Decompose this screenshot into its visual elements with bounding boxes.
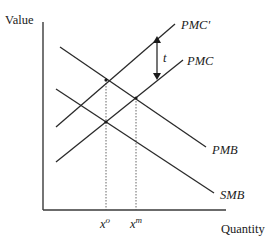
svg-text:xm: xm — [129, 215, 143, 231]
label-pmb: PMB — [211, 143, 238, 157]
quantity-label-x-o: xo — [99, 215, 111, 231]
x-o-superscript: o — [106, 215, 111, 225]
curve-pmb — [60, 47, 206, 147]
externality-diagram: Value Quantity PMC' PMC PMB SMB t xo xm — [0, 0, 279, 243]
label-pmc: PMC — [186, 54, 214, 68]
quantity-label-x-m: xm — [129, 215, 143, 231]
intersection-point — [134, 96, 137, 99]
x-m-superscript: m — [136, 215, 143, 225]
intersection-point — [104, 78, 107, 81]
tax-arrow — [153, 36, 161, 80]
svg-text:xo: xo — [99, 215, 111, 231]
tax-label: t — [163, 51, 167, 65]
label-smb: SMB — [220, 188, 245, 202]
intersection-point — [104, 120, 107, 123]
label-pmc-prime: PMC' — [180, 18, 210, 32]
x-axis-label: Quantity — [221, 222, 265, 236]
y-axis-label: Value — [5, 13, 34, 27]
curve-smb — [56, 89, 214, 193]
